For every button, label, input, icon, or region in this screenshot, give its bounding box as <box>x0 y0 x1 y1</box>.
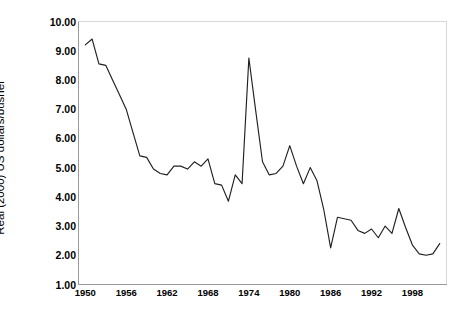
plot-area <box>0 0 464 316</box>
line-chart: Real (2000) US dollars/bushel 1.002.003.… <box>0 0 464 316</box>
axis-lines <box>79 22 447 285</box>
plot-border <box>79 22 447 285</box>
data-series-line <box>85 39 439 255</box>
